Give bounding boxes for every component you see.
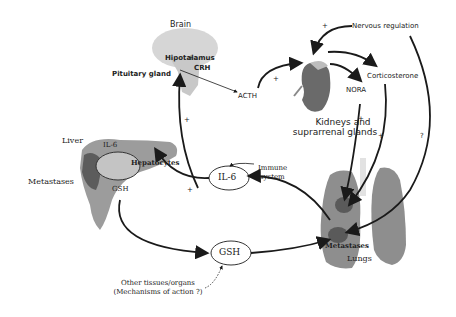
liver-label: Liver bbox=[62, 137, 83, 145]
question-sign: ? bbox=[420, 132, 424, 140]
plus-sign: + bbox=[188, 54, 194, 62]
lungs-label: Lungs bbox=[347, 255, 372, 263]
plus-sign: + bbox=[273, 75, 279, 83]
liver-gsh-label: GSH bbox=[112, 186, 129, 193]
plus-sign: + bbox=[187, 186, 193, 194]
nervous-regulation-label: Nervous regulation bbox=[352, 23, 419, 30]
lungs-metastases-label: Metastases bbox=[325, 242, 369, 249]
liver-icon bbox=[80, 139, 177, 230]
plus-sign: + bbox=[184, 116, 190, 124]
diagram-graphics bbox=[0, 0, 456, 317]
other-tissues-label-line2: (Mechanisms of action ?) bbox=[100, 289, 216, 296]
brain-label: Brain bbox=[170, 21, 191, 29]
immune-label-line1: Immune bbox=[258, 165, 287, 172]
kidneys-label-line2: suprarrenal glands bbox=[280, 128, 390, 137]
plus-sign: + bbox=[322, 22, 328, 30]
plus-sign: + bbox=[378, 132, 384, 140]
corticosterone-label: Corticosterone bbox=[367, 73, 418, 80]
il6-label: IL-6 bbox=[218, 173, 236, 182]
pituitary-label: Pituitary gland bbox=[112, 71, 171, 78]
acth-label: ACTH bbox=[238, 93, 257, 100]
crh-label: CRH bbox=[194, 65, 210, 72]
gsh-label: GSH bbox=[219, 248, 240, 257]
nora-label: NORA bbox=[346, 87, 366, 94]
kidneys-label-line1: Kidneys and bbox=[298, 118, 388, 127]
brain-icon bbox=[152, 28, 218, 96]
diagram-canvas: Brain Hipotalamus CRH Pituitary gland AC… bbox=[0, 0, 456, 317]
other-tissues-label-line1: Other tissues/organs bbox=[108, 280, 208, 287]
liver-il6-label: IL-6 bbox=[103, 142, 117, 149]
hepatocytes-label: Hepatocytes bbox=[131, 159, 179, 166]
lungs-icon bbox=[321, 158, 406, 268]
plus-sign: + bbox=[358, 115, 364, 123]
immune-label-line2: system bbox=[260, 174, 285, 181]
liver-metastases-label: Metastases bbox=[28, 178, 74, 186]
kidney-icon bbox=[294, 61, 330, 112]
